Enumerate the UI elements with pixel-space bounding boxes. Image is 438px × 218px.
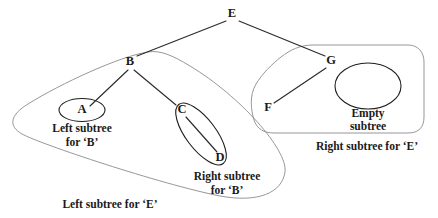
caption-left-subtree-b-line2: for ‘B’ xyxy=(66,136,99,148)
caption-empty-subtree-line2: subtree xyxy=(350,120,386,132)
edge-c-d xyxy=(186,117,217,152)
edge-e-b xyxy=(137,21,226,56)
tree-diagram-canvas: E B G A C D F Left subtree for ‘B’ Right… xyxy=(0,0,438,218)
right-subtree-e-outline xyxy=(251,45,424,133)
node-label-b: B xyxy=(126,54,134,68)
caption-left-subtree-e: Left subtree for ‘E’ xyxy=(62,198,157,210)
node-label-a: A xyxy=(77,102,86,116)
caption-left-subtree-b-line1: Left subtree xyxy=(52,122,112,134)
edge-g-f xyxy=(274,68,326,103)
caption-right-subtree-b-line2: for ‘B’ xyxy=(211,184,244,196)
caption-empty-subtree-line1: Empty xyxy=(351,107,384,120)
caption-right-subtree-b-line1: Right subtree xyxy=(194,170,261,183)
edge-b-a xyxy=(90,70,128,106)
binary-tree-diagram: E B G A C D F Left subtree for ‘B’ Right… xyxy=(0,0,438,218)
node-label-e: E xyxy=(228,6,236,20)
node-label-c: C xyxy=(177,102,186,116)
node-label-d: D xyxy=(215,150,224,164)
caption-right-subtree-e: Right subtree for ‘E’ xyxy=(316,140,418,153)
edge-b-c xyxy=(134,70,176,105)
empty-subtree-circle xyxy=(335,63,401,109)
edge-e-g xyxy=(239,21,325,56)
node-label-g: G xyxy=(326,53,336,67)
node-label-f: F xyxy=(264,100,272,114)
